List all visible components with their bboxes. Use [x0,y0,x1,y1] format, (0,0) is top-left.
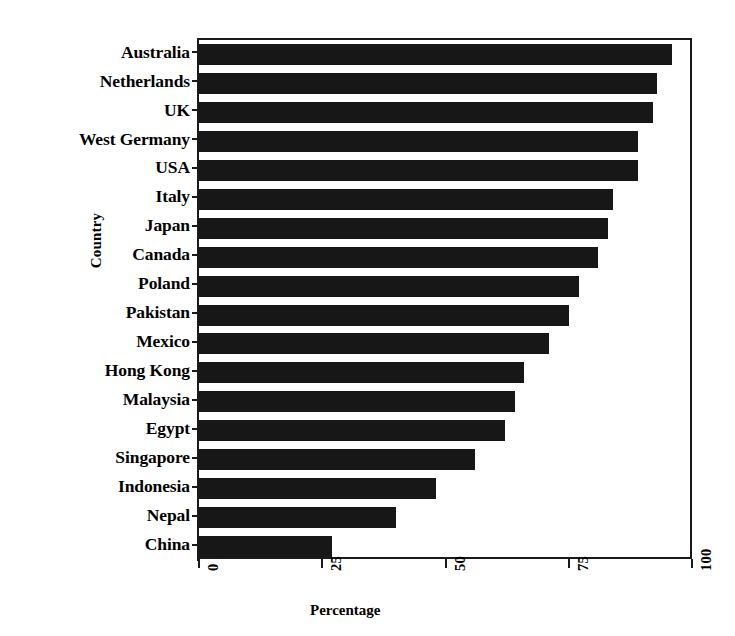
bar-row [199,156,690,185]
bar-row [199,69,690,98]
value-axis: 0255075100 [199,559,692,636]
category-label-row: West Germany [58,125,192,154]
value-tick-label: 75 [575,556,592,571]
bar-row [199,127,690,156]
bar-row [199,358,690,387]
category-label-row: Indonesia [58,472,192,501]
category-label-row: Australia [58,38,192,67]
category-label: Netherlands [100,73,192,91]
bar-row [199,503,690,532]
bar-row [199,243,690,272]
bar [199,276,579,297]
category-label-row: Poland [58,270,192,299]
category-label: Hong Kong [105,362,192,380]
category-label-row: Canada [58,241,192,270]
bar [199,102,653,123]
bar [199,44,672,65]
category-label-row: Nepal [58,501,192,530]
bar-row [199,98,690,127]
category-label: Japan [145,217,192,235]
category-label: Singapore [115,449,192,467]
value-tick-label: 100 [698,548,715,571]
bar [199,218,608,239]
bar-row [199,301,690,330]
category-label-row: USA [58,154,192,183]
category-label: Poland [138,275,192,293]
category-label-row: Netherlands [58,67,192,96]
bar-row [199,214,690,243]
bar-row [199,387,690,416]
category-label-row: Egypt [58,414,192,443]
bar-row [199,185,690,214]
category-label-row: China [58,530,192,559]
bar [199,362,524,383]
category-label: Pakistan [126,304,192,322]
bar-row [199,329,690,358]
bar [199,333,549,354]
category-label: West Germany [79,131,192,149]
bar [199,305,569,326]
bar-row [199,445,690,474]
bar-row [199,40,690,69]
plot-panel [199,38,692,559]
category-label: Indonesia [118,478,192,496]
category-label-row: Mexico [58,327,192,356]
category-label: Nepal [147,507,192,525]
category-label: Egypt [146,420,192,438]
value-tick-label: 50 [452,556,469,571]
category-label-row: Italy [58,183,192,212]
bar [199,247,598,268]
category-label-row: Malaysia [58,385,192,414]
bars-layer [199,40,690,557]
bar [199,449,475,470]
bar-row [199,474,690,503]
category-label: Mexico [136,333,192,351]
category-label: Malaysia [123,391,192,409]
value-tick-label: 25 [328,556,345,571]
bar [199,160,638,181]
bar [199,420,505,441]
bar-row [199,416,690,445]
category-label-row: UK [58,96,192,125]
category-label: Canada [132,246,192,264]
value-tick-mark [198,559,200,568]
bar-row [199,272,690,301]
bar [199,478,436,499]
category-label-row: Japan [58,212,192,241]
bar-chart-figure: Country AustraliaNetherlandsUKWest Germa… [0,0,735,636]
category-label: Australia [121,44,192,62]
value-tick-mark [691,559,693,568]
category-label: USA [155,159,192,177]
bar [199,189,613,210]
bar-row [199,532,690,561]
value-tick-mark [568,559,570,568]
bar [199,536,332,557]
value-tick-label: 0 [205,563,222,571]
category-label-row: Hong Kong [58,356,192,385]
category-label: Italy [155,188,192,206]
value-tick-mark [321,559,323,568]
bar [199,391,515,412]
bar [199,507,396,528]
category-label-row: Singapore [58,443,192,472]
category-label-row: Pakistan [58,299,192,328]
category-label: UK [164,102,192,120]
value-tick-mark [445,559,447,568]
bar [199,73,657,94]
x-axis-title: Percentage [310,602,510,619]
category-axis: AustraliaNetherlandsUKWest GermanyUSAIta… [58,38,192,559]
category-label: China [145,536,192,554]
bar [199,131,638,152]
